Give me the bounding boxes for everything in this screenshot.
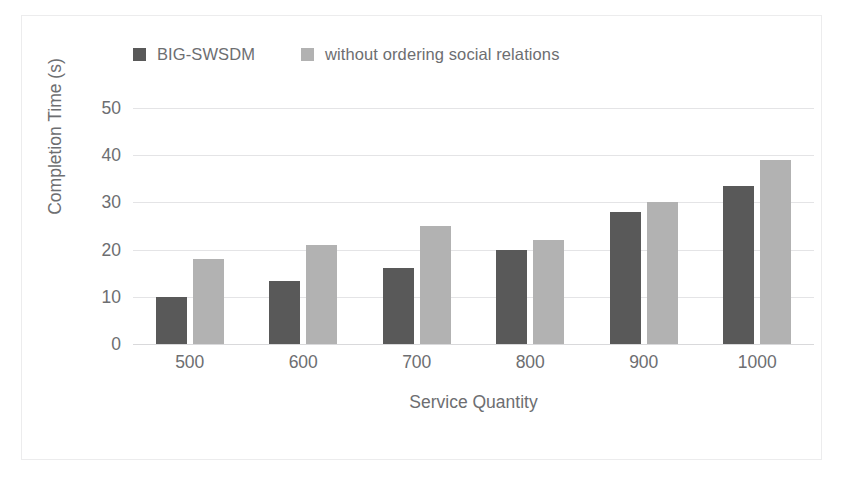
bar — [496, 250, 527, 344]
x-axis-tick-label: 1000 — [723, 352, 791, 373]
legend-label-series-0: BIG-SWSDM — [157, 45, 255, 64]
y-axis-tick-label: 50 — [102, 98, 121, 119]
bar — [647, 202, 678, 344]
y-axis-ticks: 50403020100 — [63, 108, 121, 344]
x-axis-tick-label: 600 — [269, 352, 337, 373]
y-axis-tick-label: 10 — [102, 286, 121, 307]
figure: BIG-SWSDM without ordering social relati… — [0, 0, 843, 481]
x-axis-tick-label: 900 — [610, 352, 678, 373]
bar — [610, 212, 641, 344]
bar — [760, 160, 791, 344]
bar-group — [723, 108, 791, 344]
legend-label-series-1: without ordering social relations — [325, 45, 559, 64]
legend-entry-big-swsdm: BIG-SWSDM — [133, 45, 255, 64]
bar-groups — [133, 108, 814, 344]
x-axis-tick-label: 800 — [496, 352, 564, 373]
bar — [383, 268, 414, 344]
x-axis-ticks: 5006007008009001000 — [133, 352, 814, 373]
bar-group — [156, 108, 224, 344]
y-axis-tick-label: 40 — [102, 145, 121, 166]
bar-group — [269, 108, 337, 344]
bar — [723, 186, 754, 344]
bar — [269, 281, 300, 344]
legend-entry-without-ordering-social-relations: without ordering social relations — [301, 45, 559, 64]
bar-group — [383, 108, 451, 344]
legend-swatch-series-0 — [133, 48, 146, 61]
x-axis-tick-label: 500 — [156, 352, 224, 373]
bar — [156, 297, 187, 344]
plot-area — [133, 108, 814, 344]
bar-group — [496, 108, 564, 344]
bar — [306, 245, 337, 344]
bar — [420, 226, 451, 344]
bar — [193, 259, 224, 344]
x-axis-title: Service Quantity — [133, 392, 814, 413]
x-axis-line — [133, 344, 814, 345]
y-axis-tick-label: 30 — [102, 192, 121, 213]
legend-swatch-series-1 — [301, 48, 314, 61]
x-axis-tick-label: 700 — [383, 352, 451, 373]
bar-group — [610, 108, 678, 344]
y-axis-tick-label: 0 — [111, 334, 121, 355]
bar — [533, 240, 564, 344]
chart-legend: BIG-SWSDM without ordering social relati… — [133, 42, 560, 66]
y-axis-tick-label: 20 — [102, 239, 121, 260]
